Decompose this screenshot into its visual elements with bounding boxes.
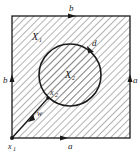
label-top-edge: b [69, 3, 74, 13]
svg-text:2: 2 [72, 75, 75, 81]
svg-text:X: X [31, 31, 39, 42]
svg-text:1: 1 [13, 146, 16, 152]
label-bottom-edge: a [68, 141, 73, 151]
label-left-edge: b [3, 75, 8, 85]
point-x1 [10, 136, 14, 140]
svg-text:2: 2 [55, 92, 58, 98]
label-point-x1: x 1 [7, 142, 16, 152]
label-path-w: w [37, 109, 43, 118]
label-right-edge: a [133, 75, 138, 85]
svg-text:x: x [7, 142, 12, 151]
svg-text:X: X [64, 69, 72, 80]
label-circle-d: d [92, 38, 97, 48]
svg-text:x: x [49, 88, 54, 97]
svg-text:1: 1 [39, 37, 42, 43]
torus-cut-diagram: b b a a d w X 1 X 2 x 1 x 2 [0, 0, 140, 159]
